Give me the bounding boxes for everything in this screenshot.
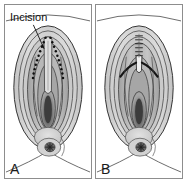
introitus-core-b bbox=[135, 98, 143, 124]
anal-folds-b bbox=[136, 143, 146, 152]
panel-a[interactable]: Incision A bbox=[4, 4, 92, 179]
panel-container: Incision A bbox=[0, 0, 187, 184]
anal-folds-a bbox=[45, 143, 55, 152]
incision-annotation-label: Incision bbox=[10, 11, 47, 23]
panel-b-illustration bbox=[96, 5, 182, 178]
introitus-core-a bbox=[44, 95, 52, 123]
panel-b[interactable]: B bbox=[95, 4, 183, 179]
panel-a-label: A bbox=[10, 162, 19, 176]
panel-b-label: B bbox=[101, 162, 110, 176]
panel-a-illustration bbox=[5, 5, 91, 178]
figure-root: Incision A bbox=[0, 0, 187, 184]
